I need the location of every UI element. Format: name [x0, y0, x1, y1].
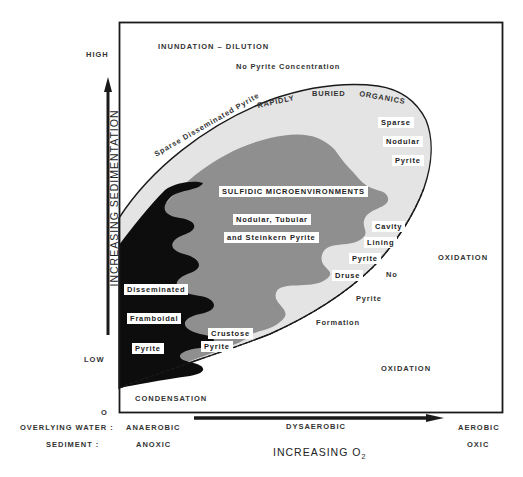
sediment-label: SEDIMENT : [46, 440, 99, 449]
no-pyrite-concentration-label: No Pyrite Concentration [236, 62, 340, 71]
y-axis-high-label: HIGH [86, 50, 109, 59]
inundation-dilution-label: INUNDATION – DILUTION [158, 42, 269, 51]
sedimentation-arrowhead [104, 77, 112, 92]
x-axis-title: INCREASING O2 [273, 446, 366, 460]
nodular-tubular-label: Nodular, Tubular [233, 214, 311, 225]
crustose-label: Crustose [208, 328, 253, 339]
y-axis-title: INCREASING SEDIMENTATION [108, 109, 120, 286]
y-axis-low-label: LOW [84, 355, 105, 364]
pyrite-label-framboidal: Pyrite [132, 343, 164, 354]
oxygen-arrowhead [426, 414, 444, 422]
anaerobic-label: ANAEROBIC [126, 423, 180, 432]
sparse-label: Sparse [378, 117, 414, 128]
disseminated-label: Disseminated [124, 284, 188, 295]
no-label: No [386, 270, 398, 279]
druse-label: Druse [332, 270, 363, 281]
pyrite-label-sparse: Pyrite [392, 155, 424, 166]
nodular-label: Nodular [383, 136, 423, 147]
dysaerobic-label: DYSAEROBIC [286, 422, 346, 431]
formation-label: Formation [316, 318, 360, 327]
x-axis-title-main: INCREASING O [273, 446, 361, 458]
pyrite-label-no-formation: Pyrite [356, 294, 382, 303]
framboidal-label: Framboidal [127, 313, 181, 324]
condensation-label: CONDENSATION [135, 394, 207, 403]
oxidation-lower-label: OXIDATION [381, 364, 431, 373]
x-axis-title-subscript: 2 [361, 453, 366, 460]
steinkern-pyrite-label: and Steinkern Pyrite [224, 232, 319, 243]
pyrite-label-crustose: Pyrite [201, 341, 233, 352]
pyrite-label-cavity: Pyrite [349, 253, 381, 264]
y-axis-zero-label: O [101, 408, 108, 417]
sulfidic-microenvironments-label: SULFIDIC MICROENVIRONMENTS [219, 186, 368, 197]
lining-label: Lining [364, 237, 397, 248]
cavity-label: Cavity [372, 221, 405, 232]
anoxic-label: ANOXIC [136, 440, 171, 449]
oxic-label: OXIC [467, 440, 489, 449]
overlying-water-label: OVERLYING WATER : [20, 423, 114, 432]
aerobic-label: AEROBIC [458, 423, 500, 432]
oxidation-upper-label: OXIDATION [438, 253, 488, 262]
buried-label: BURIED [312, 89, 346, 98]
